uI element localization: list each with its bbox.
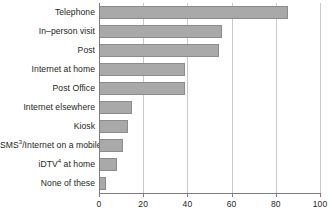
bar-row	[99, 60, 320, 79]
x-tick	[99, 193, 100, 197]
x-tick	[320, 193, 321, 197]
y-axis-line	[99, 3, 100, 193]
bar	[99, 82, 185, 95]
bar-chart: TelephoneIn–person visitPostInternet at …	[0, 0, 329, 220]
category-label: iDTV4 at home	[0, 155, 95, 174]
bar-row	[99, 41, 320, 60]
x-axis-line	[99, 193, 321, 194]
bar	[99, 63, 185, 76]
x-tick	[276, 193, 277, 197]
bar-row	[99, 22, 320, 41]
bar	[99, 25, 222, 38]
bar	[99, 44, 219, 57]
x-tick-label: 60	[227, 199, 237, 209]
bar	[99, 120, 128, 133]
category-label: None of these	[0, 174, 95, 193]
bar-row	[99, 155, 320, 174]
x-tick-label: 0	[97, 199, 102, 209]
x-tick-label: 80	[271, 199, 281, 209]
category-label: Post	[0, 41, 95, 60]
bar	[99, 158, 117, 171]
bar-row	[99, 3, 320, 22]
bar-row	[99, 79, 320, 98]
bar-row	[99, 136, 320, 155]
category-label: SMS3/Internet on a mobile	[0, 136, 95, 155]
category-label: Telephone	[0, 3, 95, 22]
x-tick-label: 20	[138, 199, 148, 209]
category-axis-labels: TelephoneIn–person visitPostInternet at …	[0, 3, 95, 193]
bar-row	[99, 174, 320, 193]
x-tick-label: 40	[183, 199, 193, 209]
gridline	[320, 3, 321, 193]
bar	[99, 6, 288, 19]
bar-row	[99, 98, 320, 117]
bar	[99, 101, 132, 114]
category-label: Internet at home	[0, 60, 95, 79]
x-tick-label: 100	[313, 199, 327, 209]
category-label: Post Office	[0, 79, 95, 98]
plot-area	[99, 3, 320, 193]
bar	[99, 139, 123, 152]
bar-row	[99, 117, 320, 136]
x-tick	[143, 193, 144, 197]
category-label: Kiosk	[0, 117, 95, 136]
category-label: In–person visit	[0, 22, 95, 41]
x-tick	[232, 193, 233, 197]
category-label: Internet elsewhere	[0, 98, 95, 117]
x-tick	[187, 193, 188, 197]
